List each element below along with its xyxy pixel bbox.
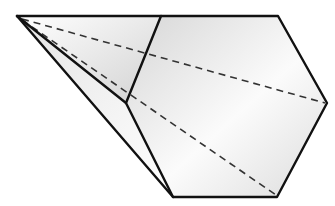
hexagonal-pyramid-diagram [0,0,335,206]
